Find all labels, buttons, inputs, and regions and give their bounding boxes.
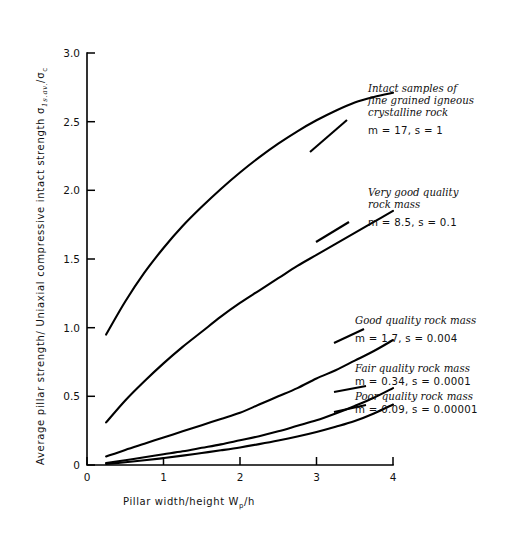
curve-poor-quality: [106, 405, 393, 464]
x-tick-label-1: 1: [160, 471, 167, 483]
y-tick-label-1.5: 1.5: [63, 253, 80, 265]
x-tick-label-4: 4: [390, 471, 397, 483]
annotation-very-good-line-2: rock mass: [368, 199, 420, 210]
svg-text:Pillar width/height: Pillar width/height Wp/h: [123, 496, 255, 510]
annotation-intact-line-3: crystalline rock: [368, 107, 448, 118]
y-axis-sigma-1: σ: [35, 107, 46, 114]
annotation-poor: Poor quality rock mass m = 0.09, s = 0.0…: [354, 391, 478, 415]
y-tick-marks: [87, 53, 95, 465]
x-tick-label-3: 3: [313, 471, 320, 483]
annotation-poor-params: m = 0.09, s = 0.00001: [355, 404, 478, 415]
y-tick-label-3.0: 3.0: [63, 47, 80, 59]
y-axis-sigma-1-sub: 1s.av.: [41, 83, 49, 107]
x-axis-title: Pillar width/height Wp/h: [123, 496, 255, 510]
annotation-intact-params: m = 17, s = 1: [368, 125, 443, 136]
y-axis-sigma-2-sub: c: [41, 67, 49, 72]
axes-group: 3.0 2.5 2.0 1.5 1.0 0.5 0 0 1 2 3 4: [63, 47, 396, 483]
annotation-good-params: m = 1.7, s = 0.004: [355, 333, 458, 344]
axis-lines: [87, 53, 393, 465]
x-axis-title-text: Pillar width/height: [123, 496, 225, 507]
y-axis-title-text: Average pillar strength/ Uniaxial compre…: [35, 118, 46, 465]
curve-fair-quality: [106, 388, 393, 463]
y-tick-label-2.0: 2.0: [63, 184, 80, 196]
annotation-very-good: Very good quality rock mass m = 8.5, s =…: [368, 187, 459, 228]
annotation-fair: Fair quality rock mass m = 0.34, s = 0.0…: [354, 363, 471, 387]
curve-intact-samples: [106, 93, 393, 335]
annotation-intact: Intact samples of fine grained igneous c…: [367, 83, 474, 136]
x-tick-label-2: 2: [237, 471, 244, 483]
y-tick-label-0.5: 0.5: [63, 390, 80, 402]
leader-line-intact: [310, 120, 347, 152]
annotation-good: Good quality rock mass m = 1.7, s = 0.00…: [355, 315, 476, 344]
annotation-intact-line-2: fine grained igneous: [367, 95, 474, 106]
x-axis-h: /h: [244, 496, 255, 507]
y-axis-title: Average pillar strength/ Uniaxial compre…: [35, 67, 49, 465]
annotation-intact-line-1: Intact samples of: [367, 83, 459, 94]
x-axis-w: W: [229, 496, 240, 507]
curve-very-good-quality: [106, 211, 393, 423]
chart-svg: 3.0 2.5 2.0 1.5 1.0 0.5 0 0 1 2 3 4 Aver…: [0, 0, 528, 539]
annotation-poor-line-1: Poor quality rock mass: [354, 391, 473, 402]
annotation-fair-params: m = 0.34, s = 0.0001: [355, 376, 471, 387]
svg-text:Average pillar strength/ Uniax: Average pillar strength/ Uniaxial compre…: [35, 67, 49, 465]
y-axis-sigma-2: σ: [35, 72, 46, 79]
y-tick-label-1.0: 1.0: [63, 322, 80, 334]
annotation-very-good-line-1: Very good quality: [368, 187, 459, 198]
y-tick-label-2.5: 2.5: [63, 116, 80, 128]
annotation-good-line-1: Good quality rock mass: [355, 315, 476, 326]
y-tick-label-0: 0: [73, 459, 80, 471]
annotation-fair-line-1: Fair quality rock mass: [354, 363, 470, 374]
annotation-very-good-params: m = 8.5, s = 0.1: [368, 217, 457, 228]
chart-figure: 3.0 2.5 2.0 1.5 1.0 0.5 0 0 1 2 3 4 Aver…: [0, 0, 528, 539]
x-tick-label-0: 0: [84, 471, 91, 483]
